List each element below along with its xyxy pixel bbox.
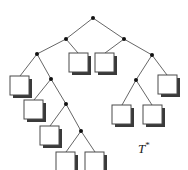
edge-root-right [93, 18, 124, 39]
left-left-node [35, 52, 39, 56]
tree-figure: T* [0, 0, 188, 170]
leaf-square-right-inner [112, 105, 134, 127]
leaf-box [10, 76, 29, 95]
leaf-square-bottom-right [85, 152, 107, 170]
edge-rrl-leaf8 [122, 80, 136, 105]
left-deep-node-b [79, 129, 83, 133]
leaf-square-left-outer [10, 76, 32, 98]
leaf-box [24, 100, 43, 119]
edge-llr-leaf4 [34, 79, 51, 100]
leaf-box [40, 126, 59, 145]
leaf-box [69, 53, 88, 72]
left-child-node [64, 37, 68, 41]
right-child-node [122, 37, 126, 41]
left-deep-node-a [64, 102, 68, 106]
right-right-node [150, 53, 154, 57]
edge-llrrr-leaf7 [81, 131, 95, 152]
left-left-right-node [49, 77, 53, 81]
edge-rr-rrl [136, 55, 152, 80]
tree-diagram-canvas [0, 0, 188, 170]
leaf-box [158, 75, 177, 94]
leaf-square-center-left [69, 53, 91, 75]
edge-r-rr [124, 39, 152, 55]
leaf-box [143, 105, 162, 124]
edge-llr-llrr [51, 79, 66, 104]
edge-llrr-leaf5 [50, 104, 66, 126]
tree-leaves-group [10, 53, 180, 170]
leaf-box [85, 152, 104, 170]
leaf-square-chain-a [24, 100, 46, 122]
edge-rr-leaf10 [152, 55, 167, 75]
tree-label-superscript: * [145, 140, 150, 150]
tree-label-t-star: T* [138, 141, 150, 155]
edge-rrl-leaf9 [136, 80, 152, 105]
leaf-square-chain-b [40, 126, 62, 148]
leaf-square-center-right [95, 53, 117, 75]
edge-l-ll [37, 39, 66, 54]
right-right-left-node [134, 78, 138, 82]
edge-ll-llr [37, 54, 51, 79]
leaf-square-bottom-left [56, 152, 78, 170]
edge-llrr-llrrr [66, 104, 81, 131]
leaf-box [95, 53, 114, 72]
edge-r-leaf3 [105, 39, 124, 53]
leaf-square-right-mid [143, 105, 165, 127]
edge-ll-leaf1 [20, 54, 37, 76]
leaf-square-right-outer [158, 75, 180, 97]
leaf-box [56, 152, 75, 170]
edge-l-leaf2 [66, 39, 78, 53]
leaf-box [112, 105, 131, 124]
tree-internal-nodes-group [35, 16, 154, 133]
edge-root-left [66, 18, 93, 39]
root-node [91, 16, 95, 20]
edge-llrrr-leaf6 [66, 131, 81, 152]
